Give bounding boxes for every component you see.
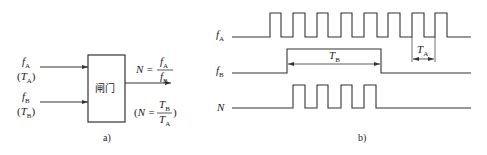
caption-a: a) [103, 132, 111, 144]
svg-text:TB: TB [159, 98, 170, 113]
waveform-n [232, 85, 471, 108]
svg-text:fA: fA [160, 55, 168, 70]
dimension-ta: TA [412, 37, 435, 62]
input-a-label: fA [22, 55, 30, 70]
output-formula-alt: (N = TB TA ) [134, 98, 177, 128]
waveform-fa [232, 13, 471, 37]
svg-text:TA: TA [417, 43, 428, 58]
caption-b: b) [358, 132, 366, 144]
input-a-period-label: (TA) [17, 70, 36, 85]
input-b-label: fB [22, 90, 30, 105]
input-b-period-label: (TB) [17, 105, 35, 120]
signal-label-fa: fA [216, 28, 224, 43]
dimension-tb: TB [288, 49, 380, 64]
frequency-measurement-diagram: 闸门 fA (TA) fB (TB) N = fA fB (N = TB TA … [0, 0, 487, 155]
svg-text:): ) [173, 106, 177, 119]
svg-text:TA: TA [159, 113, 170, 128]
signal-label-fb: fB [216, 64, 224, 79]
svg-text:N =: N = [135, 63, 154, 75]
part-b-timing-diagram: fA fB N TB TA b) [216, 13, 471, 144]
part-a-block-diagram: 闸门 fA (TA) fB (TB) N = fA fB (N = TB TA … [17, 55, 177, 144]
output-formula: N = fA fB [135, 55, 173, 85]
signal-label-n: N [216, 101, 225, 113]
svg-text:TB: TB [329, 49, 340, 64]
gate-label: 闸门 [95, 82, 115, 94]
svg-text:(N =: (N = [134, 106, 155, 119]
